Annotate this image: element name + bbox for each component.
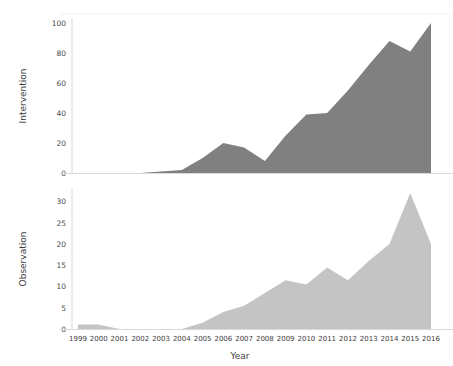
x-tick-label: 2000 (90, 335, 108, 343)
panel-intervention: 100806040200 Intervention (0, 0, 453, 183)
x-tick-label: 2014 (381, 335, 399, 343)
intervention-plot: 100806040200 Intervention (0, 0, 453, 183)
intervention-y-ticks: 100806040200 (52, 19, 67, 178)
observation-early-bar (78, 325, 99, 329)
y-tick-label: 30 (56, 197, 66, 206)
x-axis-title: Year (229, 351, 249, 361)
x-tick-labels: 1999200020012002200320042005200620072008… (69, 335, 440, 343)
x-tick-label: 2010 (297, 335, 315, 343)
x-tick-label: 2003 (152, 335, 170, 343)
y-tick-label: 80 (56, 49, 66, 58)
y-tick-label: 25 (56, 219, 66, 228)
x-tick-label: 2006 (214, 335, 232, 343)
x-tick-label: 2004 (173, 335, 191, 343)
panel-observation: 302520151050 Observation 199920002001200… (0, 183, 453, 366)
y-tick-label: 20 (56, 139, 66, 148)
x-tick-label: 2009 (277, 335, 295, 343)
y-tick-label: 5 (61, 304, 66, 313)
chart-figure: 100806040200 Intervention 302520151050 O… (0, 0, 453, 366)
intervention-axis-label: Intervention (18, 69, 28, 124)
y-tick-label: 100 (52, 19, 67, 28)
observation-area-series (78, 193, 431, 329)
x-tick-label: 2012 (339, 335, 357, 343)
x-tick-label: 2001 (111, 335, 129, 343)
y-tick-label: 60 (56, 79, 66, 88)
x-tick-label: 2002 (131, 335, 149, 343)
y-tick-label: 10 (56, 282, 66, 291)
observation-y-ticks: 302520151050 (56, 197, 66, 333)
x-tick-label: 2015 (401, 335, 419, 343)
x-tick-label: 2011 (318, 335, 336, 343)
x-tick-label: 2005 (194, 335, 212, 343)
x-tick-label: 2013 (360, 335, 378, 343)
y-tick-label: 15 (56, 261, 66, 270)
y-tick-label: 20 (56, 240, 66, 249)
x-tick-label: 1999 (69, 335, 87, 343)
y-tick-label: 40 (56, 109, 66, 118)
x-tick-label: 2016 (422, 335, 440, 343)
observation-plot: 302520151050 Observation 199920002001200… (0, 183, 453, 366)
x-tick-label: 2008 (256, 335, 274, 343)
intervention-area-series (78, 23, 431, 173)
x-tick-label: 2007 (235, 335, 253, 343)
observation-axis-label: Observation (18, 232, 28, 287)
